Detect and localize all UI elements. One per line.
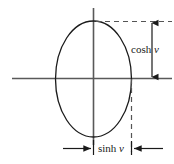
- cosh-label-function: cosh: [131, 43, 151, 55]
- cosh-label: cosh v: [131, 44, 159, 55]
- diagram-canvas: [0, 0, 174, 164]
- ellipse-hyperbolic-parameters-diagram: cosh v sinh v: [0, 0, 174, 164]
- sinh-label: sinh v: [98, 143, 124, 154]
- sinh-label-function: sinh: [98, 142, 116, 154]
- cosh-label-variable: v: [154, 43, 159, 55]
- sinh-label-variable: v: [119, 142, 124, 154]
